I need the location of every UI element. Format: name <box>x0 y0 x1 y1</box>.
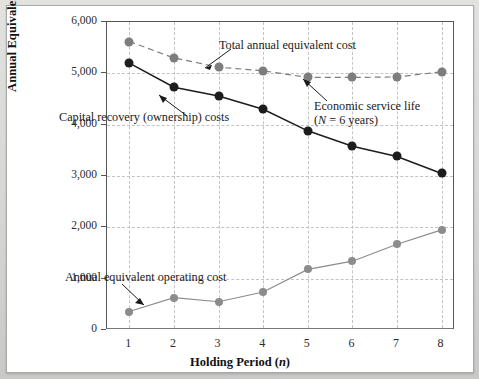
y-axis-title: Annual Equivalent Cost ($) <box>5 0 20 92</box>
annotation-capital-recovery: Capital recovery (ownership) costs <box>59 110 229 124</box>
x-tick-label: 8 <box>426 337 456 349</box>
y-tick-label: 2,000 <box>43 221 97 233</box>
data-point <box>393 152 402 161</box>
data-point <box>348 257 356 265</box>
data-point <box>393 240 401 248</box>
figure-root: Annual Equivalent Cost ($) Holding Perio… <box>0 0 479 379</box>
data-point <box>259 288 267 296</box>
x-tick-label: 2 <box>158 337 188 349</box>
data-point <box>214 91 223 100</box>
data-point <box>170 294 178 302</box>
x-tick-label: 5 <box>292 337 322 349</box>
x-axis-title-variable: n <box>279 355 286 369</box>
x-tick-label: 4 <box>247 337 277 349</box>
leader-operating-cost <box>119 282 151 310</box>
leader-economic-service-life <box>297 76 331 104</box>
data-point <box>303 126 312 135</box>
data-point <box>437 67 446 76</box>
data-point <box>215 298 223 306</box>
annotation-total-cost: Total annual equivalent cost <box>219 38 356 52</box>
y-tick-label: 6,000 <box>43 15 97 27</box>
data-point <box>438 226 446 234</box>
data-point <box>437 169 446 178</box>
data-point <box>348 73 357 82</box>
y-tick-label: 0 <box>43 323 97 335</box>
data-point <box>125 37 134 46</box>
annotation-esl-value: = 6 years) <box>326 113 378 127</box>
y-tick-mark <box>101 329 106 330</box>
data-point <box>169 83 178 92</box>
y-tick-label: 3,000 <box>43 169 97 181</box>
x-axis-title-main: Holding Period ( <box>190 355 279 369</box>
annotation-esl-line2: (N = 6 years) <box>314 113 420 127</box>
data-point <box>125 59 134 68</box>
y-tick-label: 5,000 <box>43 67 97 79</box>
leader-total-cost <box>197 47 237 77</box>
data-point <box>169 53 178 62</box>
data-point <box>259 105 268 114</box>
data-point <box>304 265 312 273</box>
x-tick-label: 6 <box>336 337 366 349</box>
x-tick-label: 3 <box>203 337 233 349</box>
annotation-esl-variable: N <box>318 113 326 127</box>
x-axis-title: Holding Period (n) <box>7 355 473 370</box>
x-tick-label: 7 <box>381 337 411 349</box>
chart-panel: Annual Equivalent Cost ($) Holding Perio… <box>6 5 474 373</box>
leader-capital-recovery <box>153 92 193 118</box>
data-point <box>259 66 268 75</box>
data-point <box>393 72 402 81</box>
x-axis-title-end: ) <box>286 355 290 369</box>
data-point <box>348 142 357 151</box>
x-tick-label: 1 <box>113 337 143 349</box>
